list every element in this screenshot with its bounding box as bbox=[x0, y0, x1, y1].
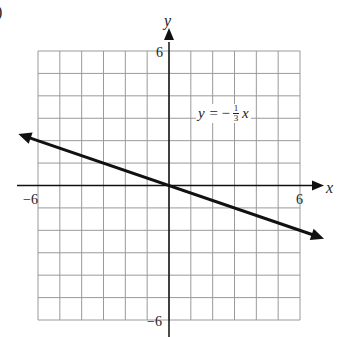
coordinate-plane bbox=[0, 0, 339, 337]
x-axis-label: x bbox=[326, 180, 333, 196]
equation-variable: x bbox=[242, 105, 249, 122]
y-axis-label: y bbox=[164, 13, 171, 29]
corner-fragment: ) bbox=[0, 4, 2, 20]
x-min-tick-label: −6 bbox=[23, 193, 38, 207]
equation-minus: − bbox=[222, 105, 230, 122]
y-max-tick-label: 6 bbox=[156, 46, 163, 60]
y-min-tick-label: −6 bbox=[147, 315, 162, 329]
fraction-denominator: 3 bbox=[234, 114, 239, 123]
x-max-tick-label: 6 bbox=[296, 193, 303, 207]
fraction-numerator: 1 bbox=[234, 104, 239, 113]
equation-lhs: y = bbox=[198, 105, 219, 122]
equation-label: y = − 1 3 x bbox=[196, 104, 251, 123]
equation-fraction: 1 3 bbox=[233, 104, 239, 123]
